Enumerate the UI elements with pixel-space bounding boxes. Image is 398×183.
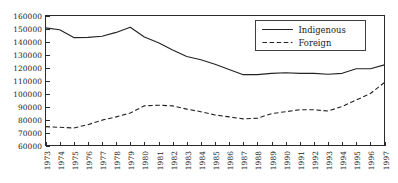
y-tick-label: 80000 — [18, 116, 42, 125]
x-tick-label: 1992 — [311, 151, 320, 170]
x-tick-label: 1975 — [71, 151, 80, 170]
x-tick-label: 1990 — [283, 151, 292, 170]
x-tick-label: 1987 — [240, 151, 249, 170]
x-tick-label: 1989 — [269, 151, 278, 170]
x-tick-label: 1986 — [226, 151, 235, 170]
x-tick-label: 1977 — [99, 151, 108, 170]
x-tick-label: 1995 — [353, 151, 362, 170]
x-tick-label: 1994 — [339, 151, 348, 170]
y-tick-label: 150000 — [13, 25, 42, 34]
legend: IndigenousForeign — [256, 21, 366, 51]
y-tick-label: 90000 — [18, 103, 42, 112]
x-tick-label: 1980 — [141, 151, 150, 170]
y-tick-label: 130000 — [13, 51, 42, 60]
y-tick-label: 110000 — [13, 77, 42, 86]
x-tick-label: 1974 — [57, 151, 66, 170]
y-tick-label: 60000 — [18, 142, 42, 151]
y-tick-label: 70000 — [18, 129, 42, 138]
y-tick-label: 160000 — [13, 12, 42, 21]
x-tick-label: 1982 — [170, 151, 179, 170]
x-tick-label: 1973 — [43, 151, 52, 170]
line-chart: 6000070000800009000010000011000012000013… — [0, 0, 398, 183]
legend-label-indigenous: Indigenous — [299, 25, 346, 35]
x-tick-label: 1985 — [212, 151, 221, 170]
x-tick-label: 1997 — [382, 151, 391, 170]
y-tick-label: 120000 — [13, 64, 42, 73]
x-tick-label: 1983 — [184, 151, 193, 170]
x-tick-label: 1996 — [367, 151, 376, 170]
legend-label-foreign: Foreign — [299, 38, 332, 48]
y-axis: 6000070000800009000010000011000012000013… — [13, 12, 49, 151]
y-tick-label: 140000 — [13, 38, 42, 47]
x-tick-label: 1979 — [127, 151, 136, 170]
x-tick-label: 1984 — [198, 151, 207, 170]
y-tick-label: 100000 — [13, 90, 42, 99]
x-tick-label: 1988 — [254, 151, 263, 170]
x-tick-label: 1981 — [156, 151, 165, 170]
x-tick-label: 1978 — [113, 151, 122, 170]
series-line-foreign — [46, 82, 385, 128]
x-tick-label: 1991 — [297, 151, 306, 170]
x-tick-label: 1976 — [85, 151, 94, 170]
chart-container: 6000070000800009000010000011000012000013… — [0, 0, 398, 183]
x-tick-label: 1993 — [325, 151, 334, 170]
